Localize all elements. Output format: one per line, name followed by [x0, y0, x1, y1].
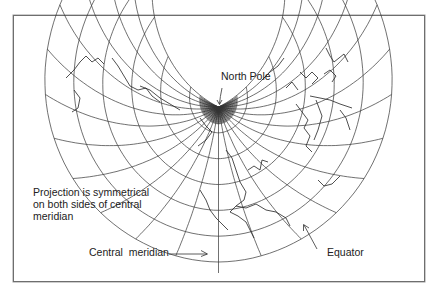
meridian-line	[219, 107, 383, 146]
symmetry-note-line-3: meridian	[33, 210, 149, 222]
meridian-line	[54, 107, 218, 146]
meridian-line	[60, 5, 219, 109]
coastline	[340, 110, 350, 130]
coastline	[236, 204, 290, 226]
symmetry-note-line-1: Projection is symmetrical	[33, 186, 149, 198]
coastline	[286, 82, 298, 90]
meridian-line	[219, 107, 337, 213]
meridian-line	[219, 107, 302, 239]
boundary-meridian	[152, 0, 219, 107]
central-meridian-label: Central meridian	[89, 246, 169, 258]
symmetry-note-line-2: on both sides of central	[33, 198, 149, 210]
coastline	[300, 72, 318, 84]
meridian-line	[133, 0, 218, 107]
coastline	[112, 58, 160, 102]
coastline	[314, 100, 322, 140]
coastline	[326, 48, 348, 62]
projection-map	[0, 0, 439, 298]
meridian-line	[219, 0, 304, 107]
coastline	[310, 96, 352, 108]
coastline	[66, 56, 104, 78]
boundary-meridian	[219, 0, 286, 107]
symmetry-note: Projection is symmetrical on both sides …	[33, 186, 149, 222]
north-pole-label: North Pole	[221, 70, 271, 82]
meridian-line	[219, 5, 378, 109]
diagram-canvas: North Pole Projection is symmetrical on …	[0, 0, 439, 298]
north-pole-arrow	[217, 88, 222, 105]
equator-label: Equator	[327, 246, 364, 258]
meridian-line	[219, 0, 327, 107]
meridian-line	[110, 0, 218, 107]
